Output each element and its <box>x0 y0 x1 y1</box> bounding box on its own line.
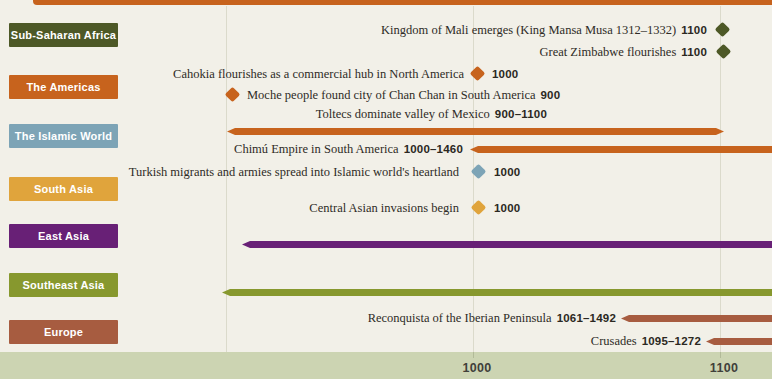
event-label-great-zimbabwe: Great Zimbabwe flourishes1100 <box>539 45 707 59</box>
event-label-cahokia: Cahokia flourishes as a commercial hub i… <box>173 67 464 81</box>
event-date: 1000–1460 <box>404 143 463 155</box>
gridline-1000 <box>473 6 474 352</box>
axis-label-1000: 1000 <box>462 361 491 375</box>
event-marker-kingdom-of-mali-diamond-icon <box>715 22 731 38</box>
event-text: Turkish migrants and armies spread into … <box>129 165 459 179</box>
timeline-bar-east-asia <box>242 241 772 248</box>
legend-label: The Americas <box>26 81 100 93</box>
legend-label: East Asia <box>38 230 89 242</box>
event-date: 900 <box>540 89 560 101</box>
gridline-900 <box>226 6 227 352</box>
legend-the-islamic-world: The Islamic World <box>9 124 118 148</box>
event-date: 1100 <box>681 46 707 58</box>
timeline-bar-reconquista <box>621 315 772 322</box>
timeline-bar-top-cutoff <box>33 0 772 5</box>
event-label-crusades: Crusades1095–1272 <box>591 334 701 348</box>
event-label-reconquista: Reconquista of the Iberian Peninsula1061… <box>368 311 616 325</box>
event-marker-moche-diamond-icon <box>225 87 241 103</box>
event-text: Kingdom of Mali emerges (King Mansa Musa… <box>381 23 676 37</box>
axis-tick-1100 <box>720 352 721 358</box>
event-label-moche: Moche people found city of Chan Chan in … <box>247 88 560 102</box>
event-date: 1095–1272 <box>642 335 701 347</box>
axis-tick-1000 <box>473 352 474 358</box>
event-text: Toltecs dominate valley of Mexico <box>316 107 490 121</box>
legend-label: South Asia <box>34 183 93 195</box>
event-text: Cahokia flourishes as a commercial hub i… <box>173 67 464 81</box>
event-text: Great Zimbabwe flourishes <box>539 45 676 59</box>
event-text: Moche people found city of Chan Chan in … <box>247 88 535 102</box>
event-text: Reconquista of the Iberian Peninsula <box>368 311 552 325</box>
timeline-bar-crusades <box>706 338 772 345</box>
legend-east-asia: East Asia <box>9 224 118 248</box>
legend-south-asia: South Asia <box>9 177 118 201</box>
event-label-kingdom-of-mali: Kingdom of Mali emerges (King Mansa Musa… <box>381 23 707 37</box>
timeline-bar-chimu-empire <box>470 146 772 153</box>
timeline-bar-southeast-asia <box>222 289 772 296</box>
timeline-figure: Sub-Saharan Africa The Americas The Isla… <box>0 0 772 379</box>
event-date-turkish-migrants: 1000 <box>494 165 520 179</box>
event-label-chimu-empire: Chimú Empire in South America1000–1460 <box>234 142 463 156</box>
legend-label: Europe <box>44 326 83 338</box>
event-date: 1061–1492 <box>557 312 616 324</box>
event-text: Chimú Empire in South America <box>234 142 399 156</box>
legend-sub-saharan-africa: Sub-Saharan Africa <box>9 23 118 47</box>
gridline-1100 <box>720 6 721 352</box>
event-text: Central Asian invasions begin <box>309 201 459 215</box>
legend-southeast-asia: Southeast Asia <box>9 273 118 297</box>
event-marker-great-zimbabwe-diamond-icon <box>716 44 732 60</box>
legend-label: Sub-Saharan Africa <box>11 29 116 41</box>
event-text: Crusades <box>591 334 637 348</box>
event-label-central-asian-invasions: Central Asian invasions begin <box>309 201 459 215</box>
event-date-cahokia: 1000 <box>492 67 518 81</box>
event-date: 900–1100 <box>495 108 547 120</box>
legend-europe: Europe <box>9 320 118 344</box>
axis-label-1100: 1100 <box>710 361 738 375</box>
event-label-turkish-migrants: Turkish migrants and armies spread into … <box>129 165 459 179</box>
event-date: 1100 <box>681 24 707 36</box>
legend-label: Southeast Asia <box>23 279 105 291</box>
timeline-axis: 1000 1100 <box>0 352 772 379</box>
legend-label: The Islamic World <box>15 130 112 142</box>
timeline-bar-toltecs <box>227 128 724 135</box>
legend-the-americas: The Americas <box>9 75 118 99</box>
event-label-toltecs: Toltecs dominate valley of Mexico900–110… <box>316 107 547 121</box>
event-date-central-asian-invasions: 1000 <box>494 201 520 215</box>
